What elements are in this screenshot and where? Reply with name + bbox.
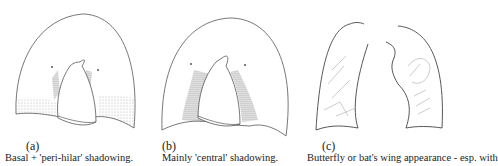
panel-a: (a) Basal + 'peri-hilar' shadowing. bbox=[0, 0, 158, 166]
panel-c: (c) Butterfly or bat's wing appearance -… bbox=[312, 0, 473, 166]
panel-caption: Mainly 'central' shadowing. bbox=[162, 152, 278, 163]
chest-diagram-basal-perihilar bbox=[0, 0, 158, 140]
panel-caption: Basal + 'peri-hilar' shadowing. bbox=[5, 152, 133, 163]
chest-diagram-bats-wing bbox=[312, 0, 473, 140]
panel-b: (b) Mainly 'central' shadowing. bbox=[158, 0, 312, 166]
chest-diagram-central bbox=[158, 0, 312, 140]
panel-caption: Butterfly or bat's wing appearance - esp… bbox=[307, 152, 498, 163]
